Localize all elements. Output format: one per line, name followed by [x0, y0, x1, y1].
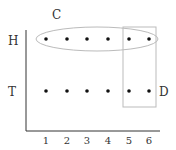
row-t-label: T — [8, 85, 16, 99]
x-tick-labels: 1 2 3 4 5 6 — [43, 135, 152, 146]
dot-h4 — [106, 37, 110, 41]
x-tick: 5 — [126, 135, 132, 146]
x-tick: 2 — [64, 135, 70, 146]
sample-space-diagram: C H T D 1 2 3 4 5 6 — [0, 0, 176, 150]
dot-t4 — [106, 89, 110, 93]
row-h-label: H — [8, 34, 18, 48]
x-tick: 6 — [146, 135, 152, 146]
x-tick: 4 — [105, 135, 111, 146]
x-tick: 3 — [84, 135, 90, 146]
dot-t3 — [85, 89, 89, 93]
dot-h2 — [65, 37, 69, 41]
dot-h1 — [44, 37, 48, 41]
x-tick: 1 — [43, 135, 49, 146]
event-c-ellipse — [36, 27, 158, 51]
event-d-label: D — [159, 85, 169, 99]
dot-h6 — [147, 37, 151, 41]
row-h-dots — [44, 37, 151, 41]
dot-t5 — [127, 89, 131, 93]
dot-t2 — [65, 89, 69, 93]
dot-t1 — [44, 89, 48, 93]
dot-t6 — [147, 89, 151, 93]
row-t-dots — [44, 89, 151, 93]
dot-h5 — [127, 37, 131, 41]
event-c-label: C — [52, 8, 61, 22]
dot-h3 — [85, 37, 89, 41]
